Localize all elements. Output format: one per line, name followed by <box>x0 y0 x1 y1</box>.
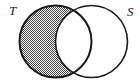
shaded-region-t-minus-s <box>20 6 128 78</box>
set-s-label: S <box>127 5 134 18</box>
set-t-label: T <box>9 4 16 17</box>
venn-diagram <box>0 0 139 83</box>
